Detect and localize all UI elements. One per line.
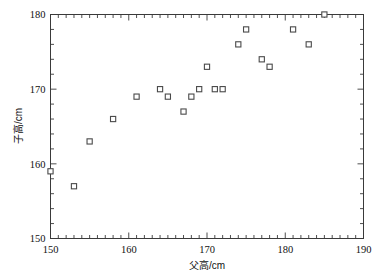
data-point-markers (48, 12, 327, 189)
data-point (181, 109, 186, 114)
data-point (259, 57, 264, 62)
data-point (134, 94, 139, 99)
plot-frame (51, 15, 364, 239)
x-tick-label: 160 (121, 244, 137, 255)
plot-area-border (51, 15, 364, 239)
data-point (236, 42, 241, 47)
data-point (111, 116, 116, 121)
y-tick-label: 160 (30, 159, 46, 170)
x-tick-label: 180 (277, 244, 293, 255)
data-point (220, 87, 225, 92)
data-point (204, 64, 209, 69)
y-tick-label: 180 (30, 9, 46, 20)
data-point (189, 94, 194, 99)
chart-canvas: 150160170180190 150160170180 父高/cm 子高/cm (0, 0, 380, 276)
data-point (48, 169, 53, 174)
x-axis-ticks (51, 15, 364, 239)
data-point (306, 42, 311, 47)
y-tick-label: 170 (30, 84, 46, 95)
data-point (290, 27, 295, 32)
x-tick-label: 170 (199, 244, 215, 255)
x-tick-label: 150 (43, 244, 59, 255)
data-point (212, 87, 217, 92)
x-axis-title: 父高/cm (189, 259, 225, 271)
data-point (157, 87, 162, 92)
data-point (71, 184, 76, 189)
data-point (87, 139, 92, 144)
data-point (267, 64, 272, 69)
data-point (165, 94, 170, 99)
y-axis-tick-labels: 150160170180 (30, 9, 46, 244)
y-axis-title: 子高/cm (12, 108, 24, 144)
y-tick-label: 150 (30, 233, 46, 244)
scatter-chart: 150160170180190 150160170180 父高/cm 子高/cm (0, 0, 380, 276)
data-point (322, 12, 327, 17)
data-point (197, 87, 202, 92)
data-point (244, 27, 249, 32)
x-tick-label: 190 (356, 244, 372, 255)
x-axis-tick-labels: 150160170180190 (43, 244, 372, 255)
y-axis-ticks (51, 15, 364, 239)
